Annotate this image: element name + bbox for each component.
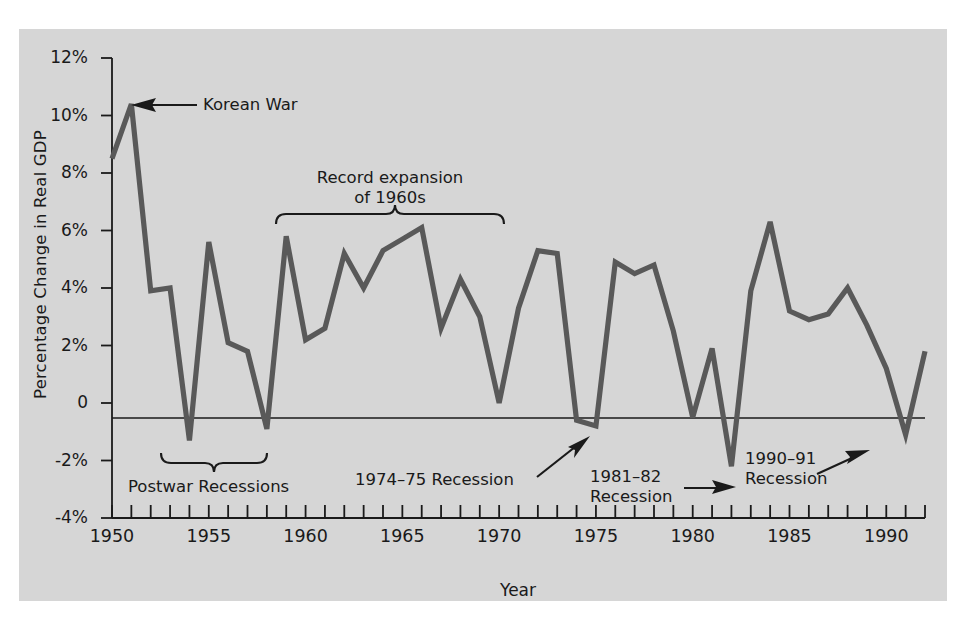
x-tick-label: 1975 xyxy=(556,526,636,546)
x-tick-label: 1955 xyxy=(169,526,249,546)
y-tick-label: -2% xyxy=(32,450,88,470)
y-tick-label: 10% xyxy=(32,105,88,125)
annotation-recession-1974-75: 1974–75 Recession xyxy=(355,470,514,490)
x-axis-ticks xyxy=(112,505,925,518)
y-tick-label: 2% xyxy=(32,335,88,355)
annotation-korean-war: Korean War xyxy=(203,95,298,115)
x-tick-label: 1960 xyxy=(266,526,346,546)
gdp-series-line xyxy=(112,104,925,466)
x-tick-label: 1985 xyxy=(750,526,830,546)
y-tick-label: 8% xyxy=(32,162,88,182)
annotation-recession-1990-91: 1990–91 Recession xyxy=(745,449,827,489)
x-axis-title: Year xyxy=(458,580,578,600)
x-tick-label: 1990 xyxy=(846,526,926,546)
y-tick-label: 4% xyxy=(32,277,88,297)
annotation-recession-1981-82: 1981–82 Recession xyxy=(590,467,672,507)
annotation-postwar-recessions: Postwar Recessions xyxy=(128,477,289,497)
x-tick-label: 1950 xyxy=(72,526,152,546)
y-tick-label: 6% xyxy=(32,220,88,240)
annotation-marks xyxy=(131,98,870,494)
annotation-record-expansion: Record expansion of 1960s xyxy=(305,168,475,208)
postwar-recessions-brace-icon xyxy=(161,453,267,472)
recession-1974-75-arrow-icon xyxy=(537,436,590,477)
x-tick-label: 1980 xyxy=(653,526,733,546)
recession-1981-82-arrow-icon xyxy=(684,480,736,494)
y-tick-label: 0 xyxy=(32,392,88,412)
x-tick-label: 1965 xyxy=(362,526,442,546)
korean-war-arrow-icon xyxy=(131,98,197,112)
x-tick-label: 1970 xyxy=(459,526,539,546)
y-tick-label: 12% xyxy=(32,47,88,67)
y-axis-ticks xyxy=(101,58,112,518)
y-tick-label: -4% xyxy=(32,507,88,527)
figure-root: Percentage Change in Real GDP Year 12%10… xyxy=(0,0,966,631)
